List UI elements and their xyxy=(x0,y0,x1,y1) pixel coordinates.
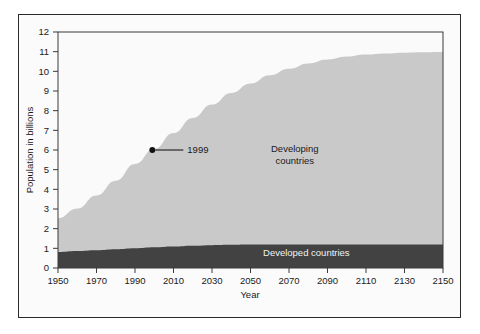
x-tick-label-2130: 2130 xyxy=(394,275,415,286)
x-tick-label-1990: 1990 xyxy=(124,275,145,286)
x-tick-label-2090: 2090 xyxy=(317,275,338,286)
y-axis-ticks xyxy=(53,32,58,268)
y-tick-label-9: 9 xyxy=(44,85,49,96)
developing-countries-label: Developingcountries xyxy=(271,143,319,166)
y-tick-label-7: 7 xyxy=(44,125,49,136)
x-tick-label-2150: 2150 xyxy=(432,275,453,286)
x-tick-label-2110: 2110 xyxy=(356,275,376,286)
x-tick-label-2050: 2050 xyxy=(240,275,261,286)
figure-container: 0123456789101112 19501970199020102030205… xyxy=(0,0,480,334)
x-tick-label-1970: 1970 xyxy=(86,275,107,286)
y-tick-label-11: 11 xyxy=(39,46,49,57)
y-tick-label-2: 2 xyxy=(44,223,49,234)
y-tick-label-10: 10 xyxy=(38,66,49,77)
population-area-chart: 0123456789101112 19501970199020102030205… xyxy=(0,0,480,334)
y-axis-title: Population in billions xyxy=(24,106,35,193)
x-axis-title: Year xyxy=(240,289,259,300)
x-axis-tick-labels: 1950197019902010203020502070209021102130… xyxy=(47,275,453,286)
x-tick-label-2030: 2030 xyxy=(201,275,222,286)
x-axis-ticks xyxy=(58,268,443,273)
y-tick-label-0: 0 xyxy=(44,262,49,273)
1999-marker-dot xyxy=(149,147,155,153)
developed-countries-label: Developed countries xyxy=(263,247,350,258)
1999-marker-text: 1999 xyxy=(187,144,208,155)
y-tick-label-8: 8 xyxy=(44,105,49,116)
developing-countries-label-line-0: Developing xyxy=(271,143,319,154)
y-tick-label-12: 12 xyxy=(38,26,49,37)
x-tick-label-2010: 2010 xyxy=(163,275,184,286)
developed-countries-label-line-0: Developed countries xyxy=(263,247,350,258)
y-tick-label-4: 4 xyxy=(44,184,49,195)
developing-countries-label-line-1: countries xyxy=(275,155,314,166)
x-tick-label-2070: 2070 xyxy=(278,275,299,286)
y-axis-tick-labels: 0123456789101112 xyxy=(38,26,49,273)
y-tick-label-1: 1 xyxy=(44,243,49,254)
y-tick-label-3: 3 xyxy=(44,203,49,214)
y-tick-label-5: 5 xyxy=(44,164,49,175)
y-tick-label-6: 6 xyxy=(44,144,49,155)
x-tick-label-1950: 1950 xyxy=(47,275,68,286)
